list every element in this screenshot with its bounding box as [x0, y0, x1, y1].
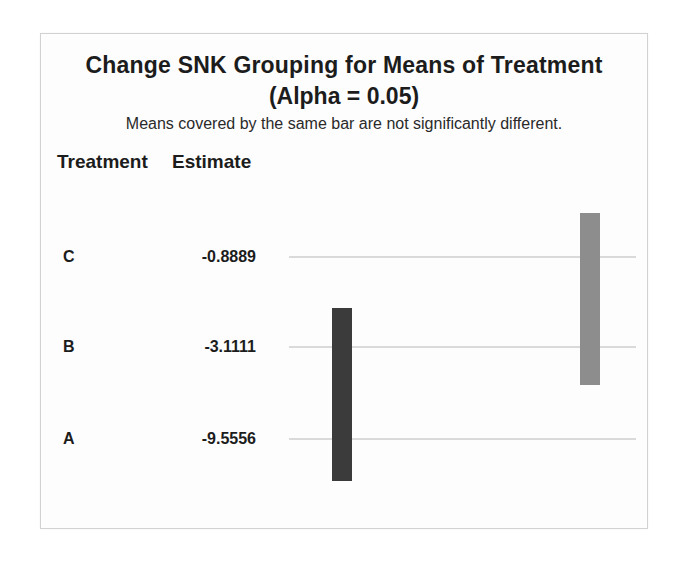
- treatment-label-a: A: [63, 429, 75, 449]
- page: Change SNK Grouping for Means of Treatme…: [0, 0, 686, 561]
- column-header-estimate: Estimate: [172, 151, 251, 173]
- chart-subtitle-alpha: (Alpha = 0.05): [41, 83, 647, 110]
- estimate-value-a: -9.5556: [169, 429, 256, 449]
- chart-title: Change SNK Grouping for Means of Treatme…: [41, 52, 647, 79]
- chart-note: Means covered by the same bar are not si…: [41, 115, 647, 133]
- estimate-value-b: -3.1111: [169, 337, 256, 357]
- treatment-label-c: C: [63, 247, 75, 267]
- grouping-bar-b-a: [332, 308, 352, 481]
- treatment-label-b: B: [63, 337, 75, 357]
- snk-chart-panel: Change SNK Grouping for Means of Treatme…: [40, 33, 648, 529]
- grouping-bar-c-b: [580, 213, 600, 385]
- column-header-treatment: Treatment: [57, 151, 148, 173]
- estimate-value-c: -0.8889: [169, 247, 256, 267]
